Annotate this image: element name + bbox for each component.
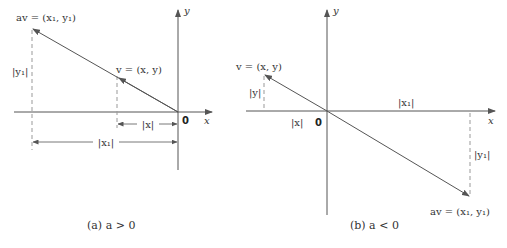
label-abs-x1: |x₁| [398,97,414,109]
label-abs-x: |x| [142,119,154,131]
label-av: av = (x₁, y₁) [430,206,490,217]
label-v: v = (x, y) [115,64,162,75]
label-v: v = (x, y) [235,61,282,72]
label-x-axis: x [488,115,494,126]
vector-v [265,75,327,111]
label-abs-x: |x| [291,117,303,129]
panel-b: v = (x, y) |y| |x| |x₁| |y₁| av = (x₁, y… [235,5,495,232]
label-av: av = (x₁, y₁) [16,12,76,23]
label-x-axis: x [204,115,210,126]
caption-b: (b) a < 0 [350,219,399,232]
label-abs-x1: |x₁| [98,137,114,149]
scalar-multiple-diagram: |x| |x₁| av = (x₁, y₁) v = (x, y) |y₁| 0… [0,0,507,248]
label-abs-y1: |y₁| [12,66,28,78]
label-origin: 0 [182,115,189,126]
label-abs-y1: |y₁| [474,149,490,161]
vector-av [327,111,469,196]
vector-v [119,78,178,112]
panel-a: |x| |x₁| av = (x₁, y₁) v = (x, y) |y₁| 0… [12,5,212,232]
label-y-axis: y [332,5,339,16]
label-abs-y: |y| [249,87,261,99]
caption-a: (a) a > 0 [87,219,135,232]
label-origin: 0 [315,117,322,128]
label-y-axis: y [183,5,190,16]
